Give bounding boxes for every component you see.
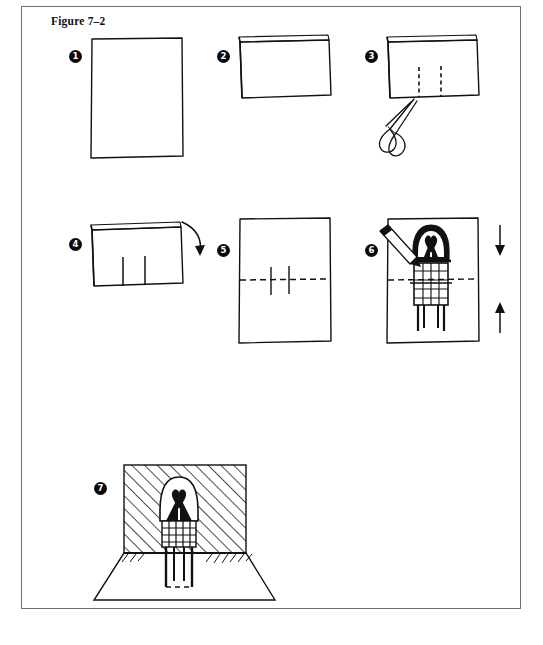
step-number-1: 1 bbox=[69, 50, 82, 63]
step-3-drawing bbox=[318, 7, 518, 192]
arrow-up bbox=[495, 302, 505, 333]
popup-body-grid bbox=[414, 263, 448, 305]
folded-sheet bbox=[388, 40, 479, 98]
fold-edge-top bbox=[91, 222, 181, 230]
arrow-down bbox=[495, 225, 505, 256]
step-6-drawing bbox=[318, 195, 518, 385]
dashed-fold-line-horizontal bbox=[388, 279, 479, 280]
hatched-back-panel bbox=[124, 465, 246, 553]
paper-sheet-portrait bbox=[387, 218, 479, 343]
step-number-5: 5 bbox=[217, 244, 230, 257]
popup-heart-motif bbox=[172, 490, 186, 509]
shadow-hatching bbox=[122, 554, 252, 563]
step-7-drawing bbox=[62, 447, 292, 607]
step-6: 6 bbox=[318, 195, 518, 385]
pencil-icon bbox=[380, 225, 421, 267]
step-number-7: 7 bbox=[94, 482, 107, 495]
fold-spine-left bbox=[387, 37, 390, 98]
fold-spine-left bbox=[239, 37, 242, 98]
popup-ray-left bbox=[166, 497, 178, 521]
step-number-6: 6 bbox=[365, 244, 378, 257]
popup-body-grid bbox=[162, 521, 196, 547]
fold-edge-top bbox=[239, 35, 329, 42]
step-3: 3 bbox=[318, 7, 518, 192]
scissors-icon bbox=[379, 99, 417, 156]
popup-card-open bbox=[94, 465, 275, 600]
figure-frame: Figure 7–2 1 2 3 bbox=[21, 6, 521, 609]
fold-edge-top bbox=[387, 35, 477, 42]
popup-heart-motif bbox=[425, 236, 437, 253]
popup-arch-head bbox=[413, 225, 449, 261]
base-panel bbox=[94, 553, 275, 600]
step-number-4: 4 bbox=[69, 238, 82, 251]
drawn-popup-figure bbox=[410, 225, 452, 331]
popup-body-panel bbox=[162, 521, 196, 547]
popup-body-panel bbox=[414, 263, 448, 305]
step-number-3: 3 bbox=[365, 50, 378, 63]
popup-ray-left bbox=[424, 242, 430, 257]
step-7: 7 bbox=[62, 447, 292, 607]
popup-ray-right bbox=[180, 497, 192, 521]
step-number-2: 2 bbox=[217, 50, 230, 63]
popup-ray-right bbox=[432, 242, 438, 257]
popup-arch-head bbox=[160, 477, 198, 521]
standing-popup-figure bbox=[160, 477, 198, 587]
fold-spine-left bbox=[91, 225, 94, 286]
popup-arch-inner bbox=[418, 231, 444, 257]
